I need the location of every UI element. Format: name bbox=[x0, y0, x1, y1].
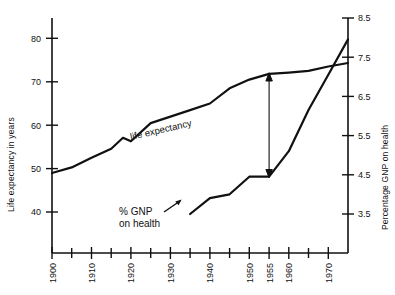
gnp-curve-label-line2: on health bbox=[119, 218, 160, 229]
left-tick-label-80: 80 bbox=[31, 34, 41, 44]
dual-axis-line-chart: 80 70 60 50 40 8.5 7.5 6.5 5.5 4.5 3.5 bbox=[0, 0, 395, 295]
left-tick-label-40: 40 bbox=[31, 207, 41, 217]
left-axis-tick-labels: 80 70 60 50 40 bbox=[31, 34, 41, 218]
right-tick-label-4-5: 4.5 bbox=[358, 170, 371, 180]
year-1955-double-arrow bbox=[266, 73, 272, 178]
gnp-curve-label-line1: % GNP bbox=[119, 206, 153, 217]
left-tick-label-60: 60 bbox=[31, 121, 41, 131]
x-tick-label-1970: 1970 bbox=[324, 263, 334, 283]
left-tick-label-70: 70 bbox=[31, 77, 41, 87]
axis-lines bbox=[52, 18, 348, 253]
right-tick-label-3-5: 3.5 bbox=[358, 209, 371, 219]
x-tick-label-1920: 1920 bbox=[126, 263, 136, 283]
x-tick-label-1960: 1960 bbox=[284, 263, 294, 283]
right-axis-title: Percentage GNP on health bbox=[380, 125, 390, 230]
x-tick-label-1940: 1940 bbox=[205, 263, 215, 283]
left-axis-title: Life expectancy in years bbox=[6, 117, 16, 212]
x-tick-label-1950: 1950 bbox=[245, 263, 255, 283]
x-axis-tick-labels: 1900 1910 1920 1930 1940 1950 1955 1960 … bbox=[48, 263, 334, 283]
gnp-curve-label-group: % GNP on health bbox=[119, 200, 182, 229]
right-tick-label-6-5: 6.5 bbox=[358, 92, 371, 102]
right-axis-tick-labels: 8.5 7.5 6.5 5.5 4.5 3.5 bbox=[358, 13, 371, 219]
left-tick-label-50: 50 bbox=[31, 164, 41, 174]
right-tick-label-8-5: 8.5 bbox=[358, 13, 371, 23]
x-tick-label-1910: 1910 bbox=[87, 263, 97, 283]
x-tick-label-1955: 1955 bbox=[265, 263, 275, 283]
right-tick-label-5-5: 5.5 bbox=[358, 131, 371, 141]
x-tick-label-1930: 1930 bbox=[166, 263, 176, 283]
right-tick-label-7-5: 7.5 bbox=[358, 53, 371, 63]
x-tick-label-1900: 1900 bbox=[48, 263, 58, 283]
chart-figure: 80 70 60 50 40 8.5 7.5 6.5 5.5 4.5 3.5 bbox=[0, 0, 395, 295]
